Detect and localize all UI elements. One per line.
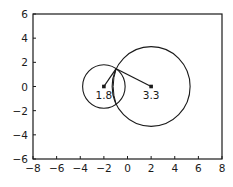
y-tick-label: −2 (13, 105, 28, 117)
x-tick-label: 0 (124, 162, 131, 174)
radius-label: 1.8 (96, 89, 113, 101)
x-tick-label: 2 (148, 162, 155, 174)
x-tick-label: −4 (73, 162, 89, 174)
x-tick-label: 4 (171, 162, 178, 174)
radius-segment (116, 69, 151, 87)
x-tick-label: 8 (219, 162, 226, 174)
y-tick-label: 4 (21, 32, 28, 44)
x-tick-label: −6 (49, 162, 65, 174)
plot-shapes: 1.83.3 (83, 47, 190, 127)
y-tick-label: −4 (13, 129, 29, 141)
y-tick-label: 6 (21, 8, 28, 20)
y-tick-label: 2 (21, 56, 28, 68)
y-tick-label: 0 (21, 81, 28, 93)
plot-frame (33, 14, 222, 159)
x-tick-label: −2 (96, 162, 111, 174)
circle-intersection-chart: −8−6−4−202468 −6−4−20246 1.83.3 (0, 0, 233, 187)
radius-label: 3.3 (143, 89, 160, 101)
x-tick-label: 6 (195, 162, 202, 174)
y-tick-label: −6 (13, 153, 29, 165)
